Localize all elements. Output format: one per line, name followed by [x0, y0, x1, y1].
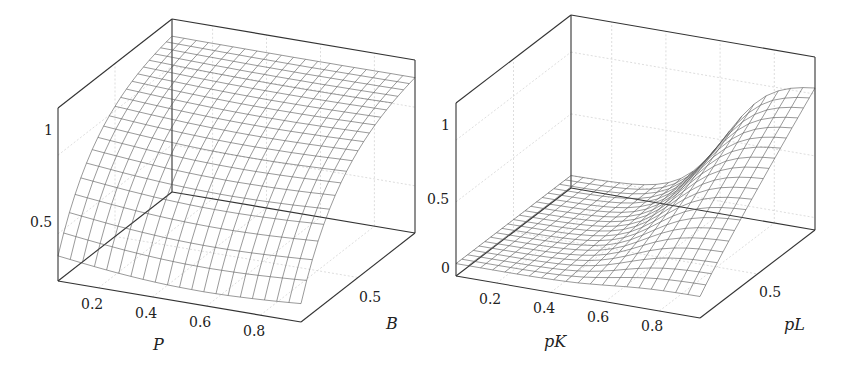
left-surface-plot: 1 0.5 0.2 0.4 0.6 0.8 P 0.5 B — [30, 19, 415, 354]
left-x-tick-0.2: 0.2 — [81, 296, 103, 312]
right-surface-mesh — [456, 88, 815, 297]
right-y-tick-0.5: 0.5 — [759, 284, 781, 300]
right-y-axis-label: pL — [784, 315, 805, 334]
left-x-tick-0.8: 0.8 — [243, 323, 265, 339]
right-z-tick-1: 1 — [441, 117, 450, 133]
left-y-axis-label: B — [385, 314, 398, 333]
left-surface-mesh — [58, 36, 415, 303]
left-x-axis-label: P — [152, 335, 164, 354]
left-x-tick-0.4: 0.4 — [135, 305, 157, 321]
right-x-tick-0.2: 0.2 — [479, 291, 501, 307]
left-front-box-edges — [58, 19, 415, 322]
right-z-tick-0.5: 0.5 — [427, 191, 449, 207]
right-surface-plot: 1 0.5 0 0.2 0.4 0.6 0.8 pK 0.5 pL — [427, 15, 815, 351]
left-x-tick-0.6: 0.6 — [189, 314, 211, 330]
right-x-tick-0.6: 0.6 — [587, 309, 609, 325]
left-z-tick-1: 1 — [44, 122, 53, 138]
figure: 1 0.5 0.2 0.4 0.6 0.8 P 0.5 B 1 0.5 0 0.… — [0, 0, 845, 376]
right-z-tick-0: 0 — [441, 260, 450, 276]
right-back-box-edges — [456, 15, 815, 276]
right-x-tick-0.8: 0.8 — [641, 318, 663, 334]
left-z-tick-0.5: 0.5 — [30, 214, 52, 230]
left-y-tick-0.5: 0.5 — [359, 289, 381, 305]
right-x-axis-label: pK — [544, 332, 567, 351]
right-x-tick-0.4: 0.4 — [533, 300, 555, 316]
